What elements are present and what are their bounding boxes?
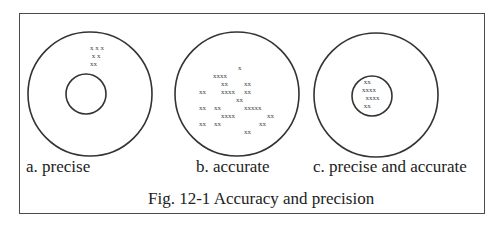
panel-b-mark: xxxx xyxy=(221,112,235,120)
panel-a-inner-circle xyxy=(66,74,106,114)
figure-caption: Fig. 12-1 Accuracy and precision xyxy=(148,189,374,209)
panel-c-marks-row: xxxx xyxy=(362,94,380,102)
panel-c-marks-row: xx xyxy=(362,78,371,86)
panel-b-mark: xxxx xyxy=(221,88,235,96)
panel-b-mark: xx xyxy=(259,120,266,128)
panel-b-mark: xx xyxy=(244,88,251,96)
panel-b-outer-circle xyxy=(175,32,299,156)
panel-b-mark: xx xyxy=(214,104,221,112)
panel-b-mark: xx xyxy=(214,120,221,128)
panel-b-mark: xx xyxy=(199,120,206,128)
panel-c-label: c. precise and accurate xyxy=(313,157,467,177)
panel-b-mark: xx xyxy=(221,80,228,88)
panel-b-mark: x xyxy=(238,64,242,72)
panel-b-mark: xx xyxy=(244,80,251,88)
panel-b-mark: xxxxx xyxy=(244,104,262,112)
panel-c-marks-row: xx xyxy=(362,102,371,110)
panel-a-label: a. precise xyxy=(26,157,90,177)
panel-b-mark: xx xyxy=(236,96,243,104)
panel-c-marks-row: xxxx xyxy=(362,86,376,94)
panel-a-marks-row: x x xyxy=(90,52,101,60)
panel-a-marks-row: x x x xyxy=(90,44,104,52)
panel-b-mark: xx xyxy=(244,128,251,136)
panel-b-mark: xx xyxy=(199,88,206,96)
panel-b-mark: xx xyxy=(199,104,206,112)
panel-b-label: b. accurate xyxy=(196,157,270,177)
panel-b-mark: xx xyxy=(267,112,274,120)
panel-b-mark: xxxx xyxy=(213,72,227,80)
panel-a-marks-row: xx xyxy=(90,60,97,68)
